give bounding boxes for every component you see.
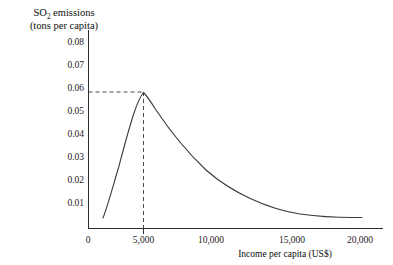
x-tick-label-20000: 20,000 <box>347 235 373 245</box>
x-axis-title: Income per capita (US$) <box>238 249 332 260</box>
chart-title-line-1: SO2 emissions <box>33 7 94 21</box>
so2-emissions-curve <box>103 93 362 219</box>
title-so-text: SO <box>33 7 47 18</box>
y-tick-label-0.01: 0.01 <box>67 198 84 208</box>
y-tick-label-0.07: 0.07 <box>67 60 84 70</box>
x-tick-label-0: 0 <box>86 235 91 245</box>
y-tick-label-0.08: 0.08 <box>67 37 84 47</box>
y-tick-label-0.02: 0.02 <box>67 175 84 185</box>
x-tick-label-10000: 10,000 <box>198 235 224 245</box>
title-emissions-text: emissions <box>50 7 94 18</box>
y-tick-label-0.03: 0.03 <box>67 152 84 162</box>
x-tick-label-15000: 15,000 <box>279 235 305 245</box>
y-tick-label-0.04: 0.04 <box>67 129 84 139</box>
y-tick-label-0.06: 0.06 <box>67 83 84 93</box>
x-tick-label-5000: 5,000 <box>133 235 155 245</box>
environmental-kuznets-curve-chart: SO2 emissions (tons per capita) 0.08 0.0… <box>0 0 393 265</box>
y-tick-label-0.05: 0.05 <box>67 106 84 116</box>
chart-figure: SO2 emissions (tons per capita) 0.08 0.0… <box>0 0 393 265</box>
